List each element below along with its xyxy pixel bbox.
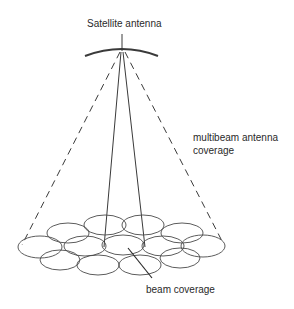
beam-cells bbox=[18, 215, 225, 275]
coverage-cone-left-edge bbox=[22, 52, 120, 245]
satellite-antenna-label: Satellite antenna bbox=[87, 17, 162, 30]
beam-cell bbox=[102, 235, 144, 255]
beam-cell bbox=[18, 236, 62, 258]
beam-cell bbox=[181, 235, 225, 257]
single-beam-right-edge bbox=[123, 52, 145, 247]
multibeam-coverage-label: multibeam antenna coverage bbox=[193, 131, 278, 157]
beam-cell bbox=[119, 255, 161, 275]
beam-coverage-pointer bbox=[128, 248, 152, 278]
multibeam-coverage-label-line1: multibeam antenna bbox=[193, 131, 278, 144]
beam-cell bbox=[161, 223, 203, 243]
beam-coverage-label: beam coverage bbox=[146, 283, 215, 296]
multibeam-coverage-label-line2: coverage bbox=[193, 144, 278, 157]
beam-cell bbox=[77, 255, 119, 275]
beam-cell bbox=[40, 250, 80, 270]
multibeam-coverage-diagram: Satellite antenna multibeam antenna cove… bbox=[0, 0, 294, 309]
beam-cell bbox=[160, 248, 200, 268]
